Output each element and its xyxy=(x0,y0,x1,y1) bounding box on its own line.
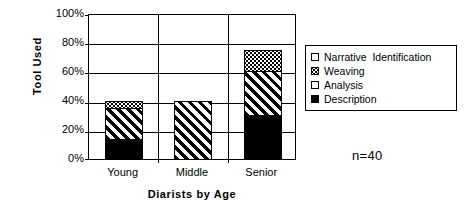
gridline-category-1 xyxy=(158,15,159,159)
y-tick-label-60: 60% xyxy=(42,66,84,77)
y-tick-mark-80 xyxy=(85,44,89,45)
legend-label-narrative-identification: Narrative Identification xyxy=(324,51,431,63)
legend-swatch-narrative-identification-icon xyxy=(311,53,319,61)
y-tick-mark-100 xyxy=(85,15,89,16)
bar-segment-senior-description[interactable] xyxy=(244,115,282,159)
x-tick-mark-1 xyxy=(158,159,159,163)
chart-legend: Narrative Identification Weaving Analysi… xyxy=(305,45,457,111)
x-tick-label-senior: Senior xyxy=(227,166,296,179)
x-tick-label-young: Young xyxy=(88,166,157,179)
bar-segment-middle-analysis[interactable] xyxy=(174,101,212,159)
y-axis-tick-labels: 100% 80% 60% 40% 20% 0% xyxy=(42,8,84,160)
plot-inner xyxy=(89,15,295,159)
y-tick-mark-40 xyxy=(85,103,89,104)
legend-item-weaving[interactable]: Weaving xyxy=(311,64,451,78)
y-tick-mark-0 xyxy=(85,159,89,160)
bar-segment-senior-analysis[interactable] xyxy=(244,71,282,115)
y-tick-label-80: 80% xyxy=(42,37,84,48)
legend-swatch-description-icon xyxy=(311,95,319,103)
y-tick-label-40: 40% xyxy=(42,95,84,106)
sample-size-annotation: n=40 xyxy=(352,148,382,163)
x-tick-label-middle: Middle xyxy=(157,166,226,179)
y-tick-mark-60 xyxy=(85,73,89,74)
legend-item-narrative-identification[interactable]: Narrative Identification xyxy=(311,50,451,64)
bar-segment-senior-weaving[interactable] xyxy=(244,50,282,72)
legend-label-weaving: Weaving xyxy=(324,65,365,77)
legend-swatch-weaving-icon xyxy=(311,67,319,75)
legend-item-analysis[interactable]: Analysis xyxy=(311,78,451,92)
y-tick-mark-20 xyxy=(85,132,89,133)
x-axis-title: Diarists by Age xyxy=(88,188,296,200)
gridline-category-2 xyxy=(228,15,229,159)
x-axis-tick-labels: Young Middle Senior xyxy=(88,166,296,182)
bar-segment-young-analysis[interactable] xyxy=(105,108,143,139)
gridline-80 xyxy=(89,44,295,45)
y-tick-label-100: 100% xyxy=(42,8,84,19)
x-tick-mark-2 xyxy=(228,159,229,163)
y-tick-label-0: 0% xyxy=(42,153,84,164)
y-tick-label-20: 20% xyxy=(42,124,84,135)
chart-plot-area xyxy=(88,14,296,160)
bar-segment-young-description[interactable] xyxy=(105,139,143,159)
bar-segment-young-weaving[interactable] xyxy=(105,101,143,108)
legend-label-analysis: Analysis xyxy=(324,79,363,91)
legend-item-description[interactable]: Description xyxy=(311,92,451,106)
legend-label-description: Description xyxy=(324,93,377,105)
legend-swatch-analysis-icon xyxy=(311,81,319,89)
